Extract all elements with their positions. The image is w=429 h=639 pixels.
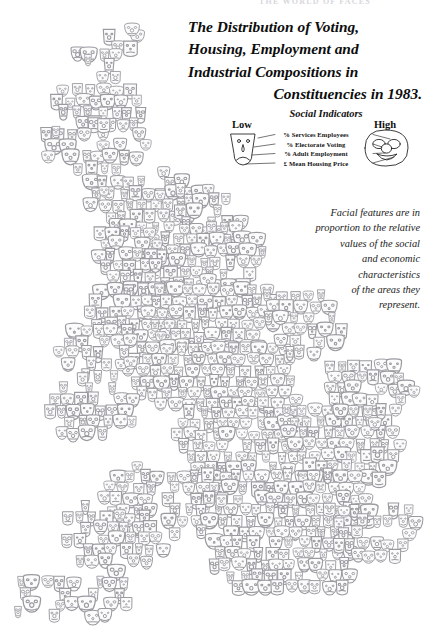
chernoff-face <box>294 345 304 359</box>
chernoff-face <box>333 404 349 419</box>
face-outline <box>303 437 316 450</box>
face-outline <box>59 104 69 120</box>
face-outline <box>226 255 235 270</box>
face-outline <box>193 440 203 452</box>
chernoff-face <box>145 545 153 557</box>
face-outline <box>176 184 186 198</box>
chernoff-face <box>196 525 206 539</box>
face-outline <box>98 427 108 441</box>
face-outline <box>348 405 358 416</box>
chernoff-face <box>236 429 247 440</box>
chernoff-face <box>125 532 135 544</box>
chernoff-face <box>93 520 107 534</box>
chernoff-face <box>186 504 193 516</box>
chernoff-face <box>299 536 310 547</box>
chernoff-face <box>201 406 208 418</box>
chernoff-face <box>129 152 143 166</box>
chernoff-face <box>216 495 226 507</box>
chernoff-face <box>317 290 324 302</box>
face-mouth <box>350 481 359 482</box>
chernoff-face <box>399 515 408 528</box>
chernoff-face <box>114 95 128 108</box>
face-outline <box>98 119 110 133</box>
chernoff-face <box>110 371 118 382</box>
chernoff-face <box>113 414 129 428</box>
face-outline <box>158 209 170 222</box>
face-outline <box>285 537 293 548</box>
chernoff-face <box>389 549 400 563</box>
chernoff-face <box>186 295 198 307</box>
chernoff-face <box>99 187 109 198</box>
chernoff-face <box>62 512 73 525</box>
face-outline <box>67 429 80 443</box>
chernoff-face <box>348 405 358 416</box>
face-outline <box>182 285 193 296</box>
chernoff-face <box>309 581 320 594</box>
chernoff-face <box>307 347 321 361</box>
chernoff-face <box>176 184 186 198</box>
chernoff-face <box>259 354 274 368</box>
chernoff-face <box>347 471 362 484</box>
face-outline <box>127 416 136 427</box>
face-outline <box>196 525 206 539</box>
chernoff-face <box>333 538 344 553</box>
face-outline <box>94 227 106 241</box>
face-outline <box>164 222 174 233</box>
face-outline <box>238 482 246 495</box>
face-outline <box>132 95 141 106</box>
face-mouth <box>236 294 246 295</box>
face-outline <box>149 259 162 273</box>
face-outline <box>101 359 111 371</box>
face-outline <box>316 482 326 493</box>
chernoff-face <box>136 363 150 376</box>
chernoff-face <box>327 335 345 351</box>
face-mouth <box>291 461 299 462</box>
chernoff-face <box>119 150 129 165</box>
face-outline <box>367 370 379 385</box>
chernoff-face <box>193 440 203 452</box>
face-mouth <box>222 231 227 232</box>
chernoff-face <box>222 193 231 204</box>
chernoff-face <box>294 300 308 314</box>
face-outline <box>109 383 116 395</box>
chernoff-face <box>76 556 84 568</box>
face-outline <box>259 354 274 368</box>
face-mouth <box>127 33 136 34</box>
chernoff-face <box>308 324 317 339</box>
face-mouth <box>152 269 160 270</box>
chernoff-face <box>188 387 202 399</box>
face-outline <box>323 468 332 483</box>
chernoff-face <box>164 222 174 233</box>
chernoff-face <box>97 71 109 83</box>
face-mouth <box>96 237 103 238</box>
chernoff-face <box>192 319 200 332</box>
face-outline <box>219 558 230 571</box>
face-outline <box>177 343 186 356</box>
chernoff-face <box>247 353 260 365</box>
chernoff-face <box>322 581 337 595</box>
face-outline <box>254 318 266 330</box>
face-outline <box>216 495 226 507</box>
face-outline <box>201 406 208 418</box>
face-mouth <box>123 607 130 608</box>
face-outline <box>308 324 317 339</box>
chernoff-face <box>124 41 138 56</box>
face-outline <box>186 504 193 516</box>
chernoff-face <box>168 397 184 411</box>
chernoff-face <box>94 227 106 241</box>
face-outline <box>286 346 294 360</box>
chernoff-face <box>386 426 400 439</box>
face-mouth <box>221 439 231 440</box>
chernoff-face <box>110 491 122 505</box>
chernoff-face <box>53 346 64 357</box>
face-outline <box>101 163 108 174</box>
chernoff-face <box>149 532 162 544</box>
chernoff-face <box>310 302 321 314</box>
chernoff-face <box>52 126 60 137</box>
face-mouth <box>212 243 221 244</box>
chernoff-face <box>271 469 283 481</box>
chernoff-face <box>271 580 284 595</box>
face-outline <box>336 580 348 595</box>
chernoff-face <box>98 119 110 133</box>
chernoff-face <box>161 513 176 528</box>
